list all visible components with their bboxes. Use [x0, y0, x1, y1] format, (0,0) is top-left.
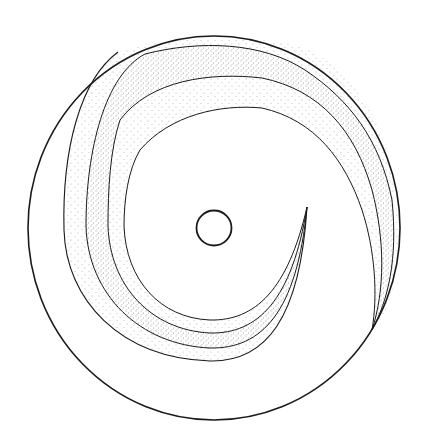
spiral-figure: [0, 0, 423, 446]
